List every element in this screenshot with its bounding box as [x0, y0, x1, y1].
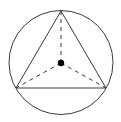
inscribed-triangle-diagram: [0, 0, 121, 122]
center-point: [58, 60, 64, 66]
